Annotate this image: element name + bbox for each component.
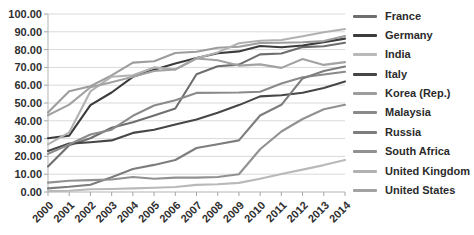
legend-swatch-south-africa <box>353 150 377 153</box>
legend-item-france: France <box>353 10 473 22</box>
x-axis-tick-label: 2014 <box>327 198 353 224</box>
legend-label: Korea (Rep.) <box>385 88 450 99</box>
legend-label: United Kingdom <box>385 166 470 177</box>
y-axis-tick-label: 100.00 <box>8 8 42 20</box>
legend-label: Russia <box>385 127 421 138</box>
legend-swatch-korea-rep <box>353 92 377 95</box>
legend-swatch-united-kingdom <box>353 170 377 173</box>
legend-item-india: India <box>353 49 473 61</box>
x-axis-tick-label: 2010 <box>242 199 268 225</box>
legend-item-united-kingdom: United Kingdom <box>353 165 473 177</box>
y-axis-tick-label: 50.00 <box>14 97 42 109</box>
x-axis-tick-label: 2012 <box>284 199 310 225</box>
y-axis-tick-label: 70.00 <box>14 61 42 73</box>
y-axis-tick-label: 80.00 <box>14 44 42 56</box>
y-axis-tick-label: 90.00 <box>14 26 42 38</box>
x-axis-tick-label: 2007 <box>178 199 204 225</box>
legend-label: Italy <box>385 69 407 80</box>
legend-label: South Africa <box>385 146 450 157</box>
legend-swatch-malaysia <box>353 111 377 114</box>
x-axis-tick-label: 2011 <box>263 199 288 224</box>
y-axis-tick-label: 60.00 <box>14 79 42 91</box>
legend-label: France <box>385 11 421 22</box>
x-axis-tick-label: 2013 <box>305 199 331 225</box>
legend-label: India <box>385 49 411 60</box>
line-chart: 0.0010.0020.0030.0040.0050.0060.0070.008… <box>0 0 474 235</box>
legend-label: Germany <box>385 30 433 41</box>
y-axis-tick-label: 30.00 <box>14 133 42 145</box>
legend-item-south-africa: South Africa <box>353 146 473 158</box>
legend-item-germany: Germany <box>353 29 473 41</box>
legend-swatch-india <box>353 53 377 56</box>
y-axis-tick-label: 40.00 <box>14 115 42 127</box>
x-axis-tick-label: 2009 <box>221 199 247 225</box>
legend-swatch-germany <box>353 34 377 37</box>
y-axis-tick-label: 10.00 <box>14 168 42 180</box>
legend-label: United States <box>385 185 455 196</box>
series-line-germany <box>48 39 345 139</box>
x-axis-tick-label: 2006 <box>157 199 183 225</box>
x-axis-tick-label: 2000 <box>30 199 56 225</box>
legend-swatch-france <box>353 15 377 18</box>
y-axis-tick-label: 20.00 <box>14 150 42 162</box>
legend-swatch-italy <box>353 73 377 76</box>
legend-item-italy: Italy <box>353 68 473 80</box>
legend-item-korea-rep: Korea (Rep.) <box>353 88 473 100</box>
x-axis-tick-label: 2005 <box>136 199 162 225</box>
legend-swatch-russia <box>353 131 377 134</box>
legend-item-russia: Russia <box>353 126 473 138</box>
x-axis-tick-label: 2003 <box>93 199 119 225</box>
x-axis-tick-label: 2004 <box>114 198 140 224</box>
legend-swatch-united-states <box>353 189 377 192</box>
legend-item-malaysia: Malaysia <box>353 107 473 119</box>
y-axis-tick-label: 0.00 <box>21 186 42 198</box>
series-line-india <box>48 160 345 191</box>
x-axis-tick-label: 2002 <box>72 199 98 225</box>
legend-item-united-states: United States <box>353 185 473 197</box>
x-axis-tick-label: 2001 <box>51 199 77 225</box>
x-axis-tick-label: 2008 <box>199 199 225 225</box>
chart-legend: FranceGermanyIndiaItalyKorea (Rep.)Malay… <box>353 10 473 204</box>
legend-label: Malaysia <box>385 107 431 118</box>
